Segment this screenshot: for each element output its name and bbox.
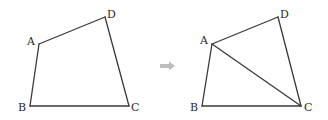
vertex-label-c: C <box>304 101 312 114</box>
vertex-label-a: A <box>26 35 36 48</box>
figure-right-quadrilateral-with-diagonal: A D B C <box>190 8 312 114</box>
edge-ba <box>30 44 39 106</box>
vertex-label-d: D <box>107 8 116 21</box>
edge-dc <box>105 17 129 106</box>
diagram-canvas: A D B C A D B C <box>0 0 328 120</box>
vertex-label-b: B <box>18 101 26 114</box>
figure-left-quadrilateral: A D B C <box>18 8 139 114</box>
vertex-label-a: A <box>199 34 209 47</box>
right-arrow-icon <box>160 62 175 71</box>
edge-ad <box>212 17 278 44</box>
edge-ba <box>202 44 212 106</box>
vertex-label-d: D <box>280 8 289 21</box>
vertex-label-b: B <box>190 101 198 114</box>
vertex-label-c: C <box>131 101 139 114</box>
edge-ad <box>39 17 105 44</box>
